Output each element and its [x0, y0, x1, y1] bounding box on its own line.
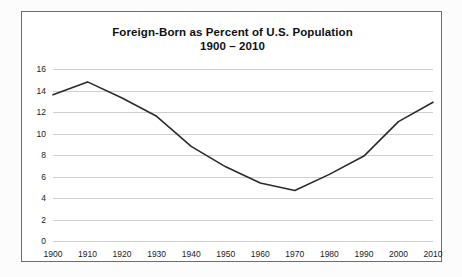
- y-tick-label-16: 16: [37, 64, 46, 74]
- y-tick-label-6: 6: [41, 172, 46, 182]
- y-tick-label-4: 4: [41, 193, 46, 203]
- y-tick-label-10: 10: [37, 129, 46, 139]
- plot-area: 0246810121416 19001910192019301940195019…: [53, 69, 433, 241]
- y-tick-label-2: 2: [41, 215, 46, 225]
- x-tick-label-1900: 1900: [44, 249, 63, 259]
- x-tick-label-1940: 1940: [182, 249, 201, 259]
- chart-subtitle: 1900 – 2010: [22, 39, 443, 53]
- x-tick-label-1950: 1950: [216, 249, 235, 259]
- chart-title-block: Foreign-Born as Percent of U.S. Populati…: [22, 25, 443, 53]
- gridline-0: [53, 241, 433, 242]
- x-tick-label-2010: 2010: [424, 249, 443, 259]
- chart-figure: Foreign-Born as Percent of U.S. Populati…: [0, 0, 462, 277]
- y-tick-label-14: 14: [37, 86, 46, 96]
- x-tick-label-1920: 1920: [113, 249, 132, 259]
- chart-frame: Foreign-Born as Percent of U.S. Populati…: [21, 11, 442, 262]
- x-tick-label-1930: 1930: [147, 249, 166, 259]
- x-tick-label-2000: 2000: [389, 249, 408, 259]
- x-tick-label-1910: 1910: [78, 249, 97, 259]
- series-polyline: [53, 82, 433, 191]
- x-tick-label-1990: 1990: [354, 249, 373, 259]
- y-tick-label-8: 8: [41, 150, 46, 160]
- x-tick-label-1960: 1960: [251, 249, 270, 259]
- data-series-line: [53, 69, 433, 241]
- y-tick-label-12: 12: [37, 107, 46, 117]
- x-tick-label-1980: 1980: [320, 249, 339, 259]
- y-tick-label-0: 0: [41, 236, 46, 246]
- x-tick-label-1970: 1970: [285, 249, 304, 259]
- chart-title: Foreign-Born as Percent of U.S. Populati…: [22, 25, 443, 39]
